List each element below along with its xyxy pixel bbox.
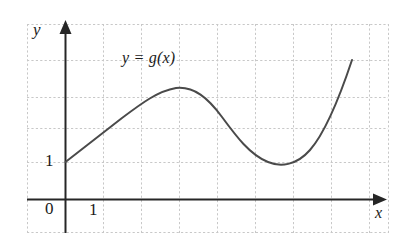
function-curve	[66, 60, 353, 165]
origin-tick-label: 0	[45, 200, 54, 217]
y-tick-label-1: 1	[45, 152, 54, 169]
plot-canvas	[0, 0, 406, 245]
graph-figure: y x 0 1 1 y = g(x)	[0, 0, 406, 245]
x-axis-label: x	[375, 205, 382, 221]
horizontal-gridlines	[27, 25, 388, 233]
axes	[27, 20, 387, 233]
x-tick-label-1: 1	[89, 201, 98, 218]
function-label: y = g(x)	[122, 50, 175, 66]
y-axis-arrowhead	[60, 20, 72, 34]
y-axis-label: y	[33, 21, 41, 38]
